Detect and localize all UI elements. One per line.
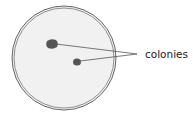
colonies-label: colonies — [145, 48, 188, 60]
petri-dish-diagram — [0, 0, 193, 121]
petri-dish — [12, 6, 116, 110]
colony-2 — [73, 59, 81, 66]
